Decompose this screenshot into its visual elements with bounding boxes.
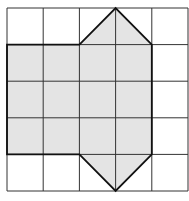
grid-figure <box>0 0 189 201</box>
